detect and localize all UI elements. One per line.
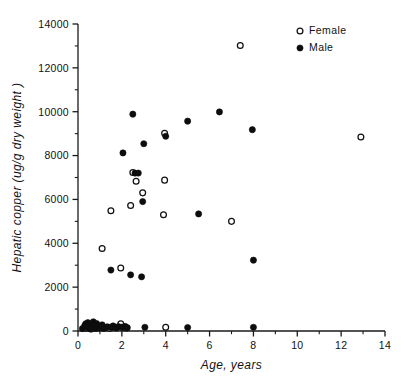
data-point-female <box>118 265 124 271</box>
x-tick-label: 2 <box>119 339 125 351</box>
x-tick-label: 6 <box>207 339 213 351</box>
data-point-male <box>124 325 130 331</box>
scatter-plot-figure: 0200040006000800010000120001400002468101… <box>0 0 407 390</box>
x-axis-title: Age, years <box>200 358 262 372</box>
data-point-male <box>138 274 144 280</box>
y-tick-label: 2000 <box>44 281 69 293</box>
data-point-female <box>133 178 139 184</box>
data-point-male <box>142 324 148 330</box>
y-tick-label: 14000 <box>38 18 69 30</box>
x-tick-label: 14 <box>379 339 391 351</box>
y-tick-label: 10000 <box>38 106 69 118</box>
data-point-male <box>130 111 136 117</box>
x-tick-label: 4 <box>163 339 169 351</box>
y-tick-label: 4000 <box>44 237 69 249</box>
data-point-female <box>162 177 168 183</box>
y-tick-label: 8000 <box>44 149 69 161</box>
data-point-male <box>249 127 255 133</box>
data-point-male <box>163 133 169 139</box>
data-point-female <box>99 246 105 252</box>
data-point-male <box>140 199 146 205</box>
y-axis-title: Hepatic copper (ug/g dry weight ) <box>10 83 24 273</box>
x-tick-label: 10 <box>291 339 303 351</box>
data-point-male <box>196 211 202 217</box>
data-point-male <box>141 141 147 147</box>
data-point-female <box>161 212 167 218</box>
data-point-female <box>128 203 134 209</box>
y-tick-label: 0 <box>63 325 69 337</box>
legend-marker-male <box>297 45 303 51</box>
data-point-male <box>216 109 222 115</box>
data-point-female <box>140 190 146 196</box>
data-point-male <box>128 272 134 278</box>
data-point-female <box>163 324 169 330</box>
x-tick-label: 8 <box>250 339 256 351</box>
legend-label-female: Female <box>309 24 346 36</box>
data-point-female <box>229 218 235 224</box>
data-point-female <box>358 134 364 140</box>
data-point-male <box>135 170 141 176</box>
data-point-male <box>250 257 256 263</box>
data-point-male <box>185 324 191 330</box>
data-point-male <box>185 118 191 124</box>
y-tick-label: 12000 <box>38 62 69 74</box>
x-tick-label: 0 <box>75 339 81 351</box>
y-tick-label: 6000 <box>44 193 69 205</box>
series-female <box>83 43 364 332</box>
data-point-male <box>250 324 256 330</box>
legend-label-male: Male <box>309 41 333 53</box>
data-point-male <box>108 267 114 273</box>
data-point-female <box>237 43 243 49</box>
data-point-male <box>120 150 126 156</box>
x-tick-label: 12 <box>335 339 347 351</box>
plot-canvas: 0200040006000800010000120001400002468101… <box>0 0 407 390</box>
legend-marker-female <box>297 28 303 34</box>
data-point-female <box>108 208 114 214</box>
